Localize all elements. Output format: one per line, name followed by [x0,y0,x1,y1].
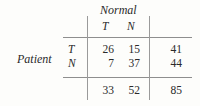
column-header-n: N [127,21,135,33]
column-header-t: T [102,21,108,33]
row-total-divider-rule [149,16,150,100]
column-total-n: 52 [114,85,140,97]
cell-n-n: 37 [114,58,140,70]
header-rule [63,37,192,38]
row-header-n: N [68,58,76,70]
column-total-t: 33 [88,85,114,97]
contingency-table-figure: Normal Patient T N T N 26 15 41 7 37 44 … [0,0,200,106]
totals-rule [63,77,192,78]
row-group-label: Patient [17,53,52,65]
grand-total: 85 [152,85,182,97]
row-total-t: 41 [152,44,182,56]
cell-n-t: 7 [88,58,114,70]
cell-t-n: 15 [114,44,140,56]
column-group-label: Normal [100,4,137,16]
row-total-n: 44 [152,58,182,70]
cell-t-t: 26 [88,44,114,56]
row-header-t: T [68,44,74,56]
